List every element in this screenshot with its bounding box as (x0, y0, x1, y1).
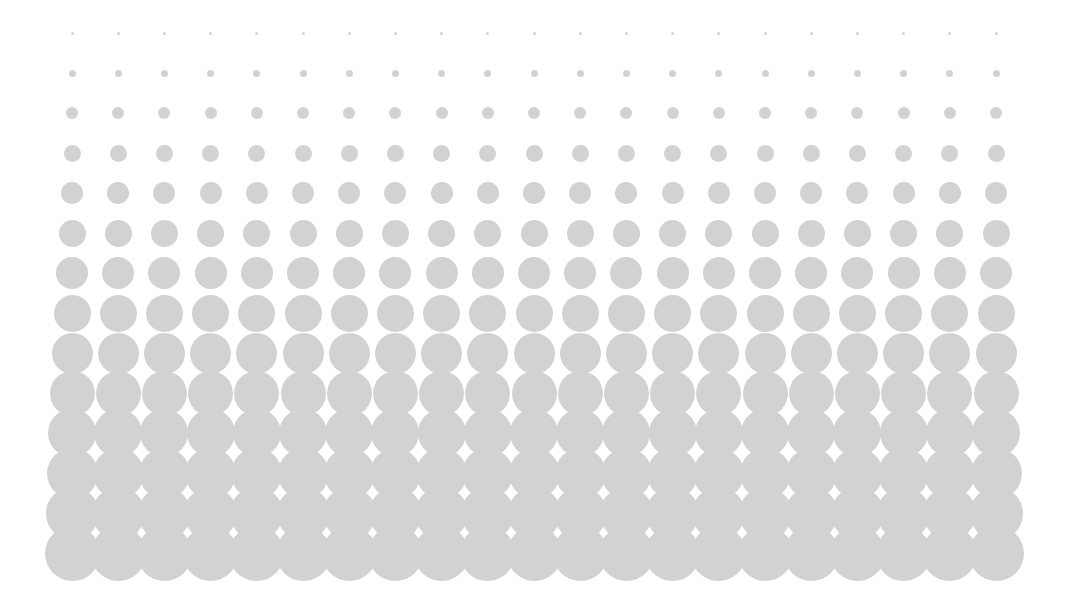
dot-row (0, 0, 1066, 607)
halftone-dot (969, 526, 1024, 581)
halftone-dot-gradient-canvas (0, 0, 1066, 607)
